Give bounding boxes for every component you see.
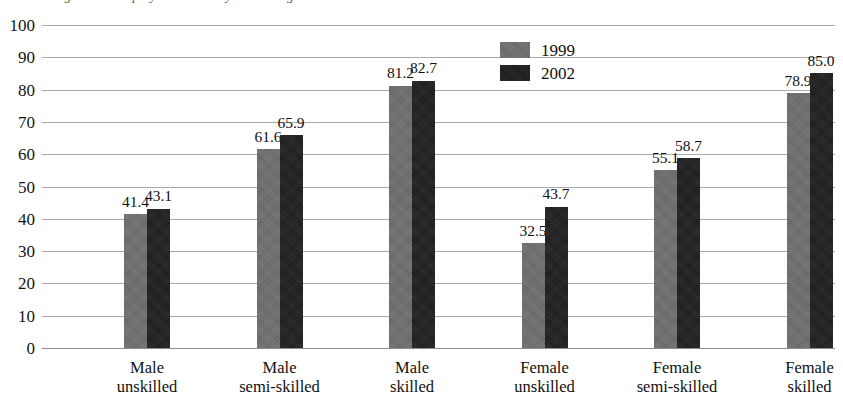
x-axis-category-label-line: skilled xyxy=(390,377,434,396)
x-axis-category-label-line: Male xyxy=(117,358,178,377)
bar-groups: 41.443.1Maleunskilled61.665.9Malesemi-sk… xyxy=(42,25,835,348)
x-axis-category-label: Malesemi-skilled xyxy=(239,358,320,396)
bar-2002 xyxy=(147,209,170,348)
plot-area: 1009080706050403020100 41.443.1Maleunski… xyxy=(42,25,835,348)
bar-value-label: 78.9 xyxy=(784,73,811,89)
bar-group: 41.443.1Maleunskilled xyxy=(124,25,170,348)
y-axis-tick-label: 80 xyxy=(18,81,35,98)
bar-value-label: 43.1 xyxy=(145,188,172,204)
x-axis-category-label: Femaleunskilled xyxy=(514,358,575,396)
y-axis-tick-label: 20 xyxy=(18,275,35,292)
y-axis-tick-label: 40 xyxy=(18,210,35,227)
x-axis-category-label: Maleunskilled xyxy=(117,358,178,396)
bar-group: 61.665.9Malesemi-skilled xyxy=(257,25,303,348)
x-axis-category-label-line: semi-skilled xyxy=(637,377,718,396)
x-axis-category-label-line: Female xyxy=(514,358,575,377)
bar-2002 xyxy=(810,73,833,348)
bar-1999 xyxy=(522,243,545,348)
bar-1999 xyxy=(389,86,412,348)
bar-1999 xyxy=(124,214,147,348)
bar-group: 55.158.7Femalesemi-skilled xyxy=(654,25,700,348)
bar-2002 xyxy=(677,158,700,348)
y-axis-tick-label: 100 xyxy=(10,17,36,34)
x-axis-category-label: Femalesemi-skilled xyxy=(637,358,718,396)
y-axis-tick-label: 60 xyxy=(18,146,35,163)
bar-group: 81.282.7Maleskilled xyxy=(389,25,435,348)
x-axis-category-label: Maleskilled xyxy=(390,358,434,396)
bar-chart-figure: Figure 3.2 Employment rates by skill and… xyxy=(0,0,843,401)
y-axis-tick-label: 30 xyxy=(18,243,35,260)
bar-value-label: 65.9 xyxy=(277,115,304,131)
x-axis-category-label-line: skilled xyxy=(785,377,834,396)
bar-value-label: 58.7 xyxy=(675,138,702,154)
figure-caption-cropped: Figure 3.2 Employment rates by skill and… xyxy=(0,0,843,4)
x-axis-category-label-line: semi-skilled xyxy=(239,377,320,396)
bar-1999 xyxy=(787,93,810,348)
x-axis-category-label-line: Female xyxy=(637,358,718,377)
x-axis-category-label-line: Female xyxy=(785,358,834,377)
legend-label: 1999 xyxy=(541,42,575,59)
bar-group: 78.985.0Femaleskilled xyxy=(787,25,833,348)
bar-2002 xyxy=(412,81,435,348)
gridline xyxy=(42,348,835,349)
x-axis-category-label-line: Male xyxy=(239,358,320,377)
bar-value-label: 85.0 xyxy=(807,53,834,69)
x-axis-category-label-line: Male xyxy=(390,358,434,377)
chart-legend: 19992002 xyxy=(500,40,620,86)
legend-swatch xyxy=(500,65,530,81)
y-axis-tick-label: 10 xyxy=(18,307,35,324)
x-axis-category-label-line: unskilled xyxy=(514,377,575,396)
bar-2002 xyxy=(280,135,303,348)
legend-item-2002: 2002 xyxy=(500,63,620,83)
y-axis-tick-label: 90 xyxy=(18,49,35,66)
bar-value-label: 82.7 xyxy=(410,60,437,76)
x-axis-category-label: Femaleskilled xyxy=(785,358,834,396)
bar-value-label: 43.7 xyxy=(542,186,569,202)
bar-1999 xyxy=(654,170,677,348)
bar-1999 xyxy=(257,149,280,348)
bar-value-label: 61.6 xyxy=(254,129,281,145)
legend-item-1999: 1999 xyxy=(500,40,620,60)
bar-2002 xyxy=(545,207,568,348)
y-axis-tick-label: 50 xyxy=(18,178,35,195)
y-axis-tick-label: 70 xyxy=(18,113,35,130)
legend-swatch xyxy=(500,42,530,58)
legend-label: 2002 xyxy=(541,65,575,82)
y-axis-tick-label: 0 xyxy=(27,340,36,357)
x-axis-category-label-line: unskilled xyxy=(117,377,178,396)
bar-value-label: 32.5 xyxy=(519,223,546,239)
